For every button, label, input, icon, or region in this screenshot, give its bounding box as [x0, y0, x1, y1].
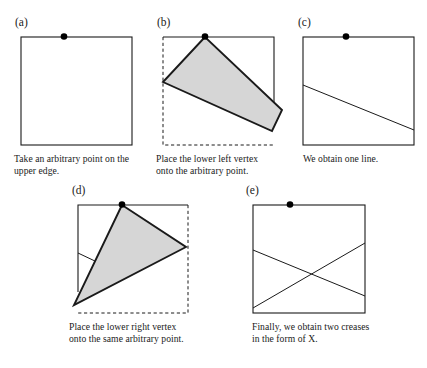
paper-square-e — [253, 205, 365, 313]
panel-d-caption: Place the lower right vertex onto the sa… — [69, 321, 184, 344]
arbitrary-point-dot-d — [119, 201, 126, 208]
crease-line-e-1 — [253, 250, 365, 296]
panel-c: (c) We obtain one line. — [282, 0, 427, 180]
panel-d-caption-line-1: Place the lower right vertex — [69, 321, 184, 333]
panel-d: (d) Place the lower right vertex onto th… — [55, 168, 220, 368]
panel-e-caption: Finally, we obtain two creases in the fo… — [252, 321, 369, 344]
panel-b-diagram — [142, 0, 302, 160]
panel-d-caption-line-2: onto the same arbitrary point. — [69, 333, 184, 345]
panel-e-caption-line-1: Finally, we obtain two creases — [252, 321, 369, 333]
folded-flap-d — [74, 205, 186, 305]
panel-a-diagram — [0, 0, 150, 160]
crease-line-e-2 — [253, 243, 365, 308]
panel-e-diagram — [228, 168, 408, 328]
arbitrary-point-dot-e — [287, 201, 294, 208]
panel-e: (e) Finally, we obtain two creases in th… — [228, 168, 398, 368]
crease-line-d-1 — [78, 253, 97, 262]
panel-c-diagram — [282, 0, 427, 160]
panel-e-caption-line-2: in the form of X. — [252, 333, 369, 345]
panel-c-caption-line-1: We obtain one line. — [303, 153, 378, 165]
panel-d-diagram — [55, 168, 230, 328]
arbitrary-point-dot-a — [61, 33, 68, 40]
panel-c-caption: We obtain one line. — [303, 153, 378, 165]
panel-b-caption-line-1: Place the lower left vertex — [156, 153, 258, 165]
paper-square-c — [303, 37, 414, 145]
panel-a: (a) Take an arbitrary point on the upper… — [0, 0, 150, 180]
arbitrary-point-dot-b — [202, 33, 209, 40]
arbitrary-point-dot-c — [343, 33, 350, 40]
paper-square-a — [21, 37, 132, 145]
panel-b: (b) Place the lower left vertex onto the… — [142, 0, 292, 180]
folded-flap-b — [163, 37, 282, 131]
crease-line-c-1 — [303, 85, 414, 130]
origami-figure: (a) Take an arbitrary point on the upper… — [0, 0, 427, 368]
panel-a-caption-line-1: Take an arbitrary point on the — [14, 153, 129, 165]
